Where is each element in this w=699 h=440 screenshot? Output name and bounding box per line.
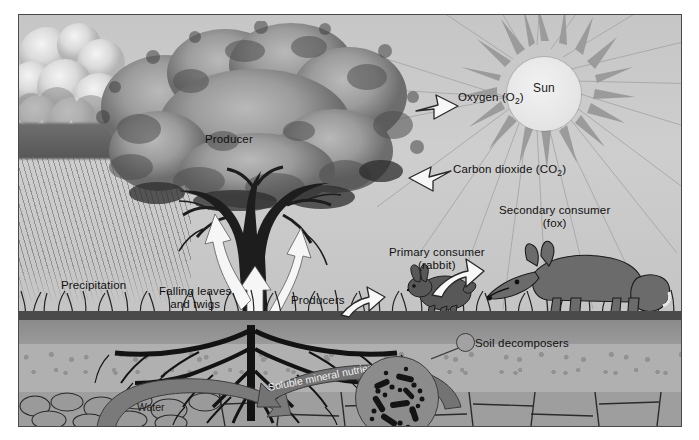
carbon-dioxide-label-tail: ) xyxy=(562,163,566,175)
falling-leaves-label: Falling leaves and twigs xyxy=(159,285,231,311)
screenshot-root: Sun xyxy=(0,0,699,440)
oxygen-label-tail: ) xyxy=(520,91,524,103)
producers-label: Producers xyxy=(291,294,345,307)
primary-consumer-line2: (rabbit) xyxy=(389,259,485,272)
soil-decomposer-sample-icon xyxy=(456,333,475,352)
producer-label: Producer xyxy=(205,133,253,146)
arrow-left-icon xyxy=(405,161,453,195)
ecosystem-diagram-plate: Sun xyxy=(18,14,682,427)
falling-leaves-line2: and twigs xyxy=(159,298,231,311)
carbon-dioxide-label-text: Carbon dioxide (CO xyxy=(453,163,557,175)
oxygen-label: Oxygen (O2) xyxy=(458,91,524,108)
arrow-up-right-producer-icon xyxy=(339,283,387,319)
falling-leaves-line1: Falling leaves xyxy=(159,285,231,298)
oxygen-label-text: Oxygen (O xyxy=(458,91,515,103)
primary-consumer-line1: Primary consumer xyxy=(389,246,485,259)
soil-decomposers-label: Soil decomposers xyxy=(475,337,569,350)
arrow-right-icon xyxy=(414,89,460,123)
precipitation-label: Precipitation xyxy=(61,279,126,292)
water-label: Water xyxy=(137,401,165,413)
carbon-dioxide-label: Carbon dioxide (CO2) xyxy=(453,163,566,180)
fox-icon xyxy=(487,228,673,324)
secondary-consumer-line1: Secondary consumer xyxy=(499,204,610,217)
secondary-consumer-line2: (fox) xyxy=(499,217,610,230)
secondary-consumer-label: Secondary consumer (fox) xyxy=(499,204,610,230)
primary-consumer-label: Primary consumer (rabbit) xyxy=(389,246,485,272)
